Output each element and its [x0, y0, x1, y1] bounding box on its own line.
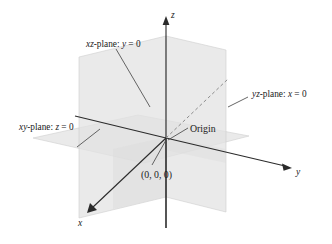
xy-plane-label: xy-plane: z = 0	[18, 122, 74, 132]
coordinate-system-figure: xz-plane: y = 0 yz-plane: x = 0 xy-plane…	[0, 0, 332, 244]
z-axis-label: z	[170, 10, 175, 20]
xz-plane-label: xz-plane: y = 0	[85, 39, 141, 49]
origin-coordinates-label: (0, 0, 0)	[141, 169, 172, 181]
yz-plane-leader-line	[228, 97, 248, 107]
y-axis-arrowhead	[282, 164, 292, 171]
y-axis-label: y	[295, 167, 301, 177]
yz-plane-label: yz-plane: x = 0	[251, 89, 307, 99]
x-axis-label: x	[77, 218, 83, 228]
z-axis-arrowhead	[163, 16, 170, 25]
origin-label: Origin	[190, 123, 216, 134]
diagram-canvas: xz-plane: y = 0 yz-plane: x = 0 xy-plane…	[0, 0, 332, 244]
